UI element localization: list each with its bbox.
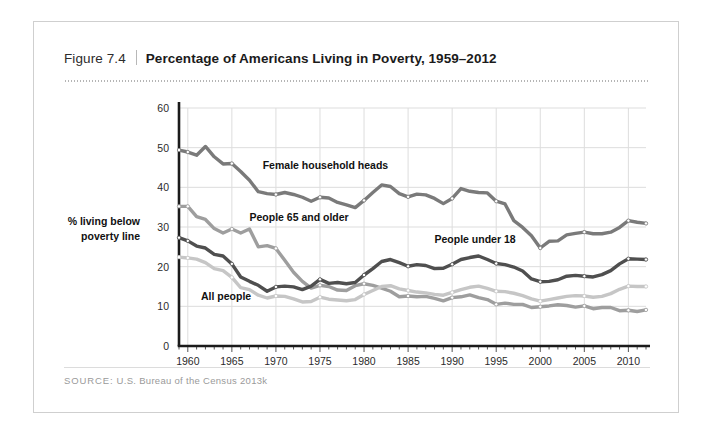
y-tick-label: 30 xyxy=(157,221,169,233)
series-data-marker xyxy=(318,278,321,281)
x-tick-labels: 1960196519701975198019851990199520002005… xyxy=(176,355,640,367)
series-data-marker xyxy=(186,150,189,153)
series-label: People 65 and older xyxy=(249,211,348,223)
series-label: Female household heads xyxy=(263,159,389,171)
x-tick-label: 1965 xyxy=(220,355,244,367)
series-data-marker xyxy=(177,236,180,239)
y-tick-label: 40 xyxy=(157,181,169,193)
x-tick-label: 1960 xyxy=(176,355,200,367)
series-data-marker xyxy=(177,255,180,258)
y-axis-title: % living belowpoverty line xyxy=(68,215,141,242)
y-tick-label: 60 xyxy=(157,102,169,114)
series-data-marker xyxy=(644,258,647,261)
series-data-marker xyxy=(177,205,180,208)
series-data-marker xyxy=(362,293,365,296)
x-tick-label: 1995 xyxy=(485,355,509,367)
series-data-marker xyxy=(583,304,586,307)
series-data-marker xyxy=(186,205,189,208)
series-data-marker xyxy=(274,193,277,196)
series-data-marker xyxy=(230,276,233,279)
x-tick-label: 1990 xyxy=(440,355,464,367)
series-data-marker xyxy=(406,265,409,268)
series-data-marker xyxy=(450,291,453,294)
series-label: People under 18 xyxy=(435,233,516,245)
series-data-marker xyxy=(539,299,542,302)
series-data-marker xyxy=(274,285,277,288)
y-axis-title-line: poverty line xyxy=(81,230,140,242)
x-tick-label: 2010 xyxy=(617,355,641,367)
series-data-marker xyxy=(644,285,647,288)
x-tick-label: 2000 xyxy=(529,355,553,367)
series-data-marker xyxy=(644,308,647,311)
series-data-marker xyxy=(274,294,277,297)
figure-card: Figure 7.4 Percentage of Americans Livin… xyxy=(33,21,679,413)
series-data-marker xyxy=(627,219,630,222)
series-data-marker xyxy=(362,199,365,202)
series-data-marker xyxy=(406,289,409,292)
y-tick-label: 20 xyxy=(157,261,169,273)
series-data-marker xyxy=(230,262,233,265)
series-lines xyxy=(179,146,646,311)
series-data-marker xyxy=(539,280,542,283)
series-line xyxy=(179,238,646,292)
series-data-marker xyxy=(274,247,277,250)
series-label: All people xyxy=(201,290,251,302)
y-tick-labels: 0102030405060 xyxy=(157,102,169,352)
series-data-marker xyxy=(450,263,453,266)
source-line: SOURCE: U.S. Bureau of the Census 2013k xyxy=(64,375,267,386)
series-data-marker xyxy=(450,197,453,200)
x-tick-label: 1970 xyxy=(264,355,288,367)
series-data-marker xyxy=(495,262,498,265)
source-text: U.S. Bureau of the Census 2013k xyxy=(117,375,268,386)
series-data-marker xyxy=(186,239,189,242)
series-data-marker xyxy=(627,309,630,312)
series-data-marker xyxy=(495,303,498,306)
y-tick-label: 0 xyxy=(163,340,169,352)
series-data-marker xyxy=(318,196,321,199)
series-data-marker xyxy=(186,256,189,259)
y-tick-label: 10 xyxy=(157,300,169,312)
series-line xyxy=(179,146,646,248)
x-tick-label: 2005 xyxy=(573,355,597,367)
x-tick-label: 1975 xyxy=(308,355,332,367)
series-data-marker xyxy=(318,296,321,299)
series-data-marker xyxy=(627,257,630,260)
source-divider xyxy=(64,367,650,368)
y-axis-title-line: % living below xyxy=(68,215,141,227)
source-label: SOURCE: xyxy=(64,375,114,386)
axis-lines xyxy=(178,102,650,346)
series-data-marker xyxy=(539,246,542,249)
series-data-marker xyxy=(362,273,365,276)
series-data-marker xyxy=(230,227,233,230)
series-data-marker xyxy=(644,222,647,225)
x-tick-label: 1980 xyxy=(352,355,376,367)
series-data-marker xyxy=(583,294,586,297)
series-data-marker xyxy=(627,284,630,287)
grid-lines xyxy=(179,108,646,346)
series-data-marker xyxy=(495,200,498,203)
poverty-line-chart: 0102030405060 19601965197019751980198519… xyxy=(34,22,680,414)
y-tick-label: 50 xyxy=(157,142,169,154)
series-data-marker xyxy=(450,296,453,299)
series-data-marker xyxy=(583,230,586,233)
series-data-marker xyxy=(230,162,233,165)
series-data-marker xyxy=(406,294,409,297)
series-data-marker xyxy=(539,305,542,308)
series-data-marker xyxy=(318,284,321,287)
series-data-marker xyxy=(583,274,586,277)
x-tick-label: 1985 xyxy=(396,355,420,367)
series-data-marker xyxy=(406,195,409,198)
series-data-marker xyxy=(362,282,365,285)
series-data-marker xyxy=(177,148,180,151)
series-data-marker xyxy=(495,290,498,293)
